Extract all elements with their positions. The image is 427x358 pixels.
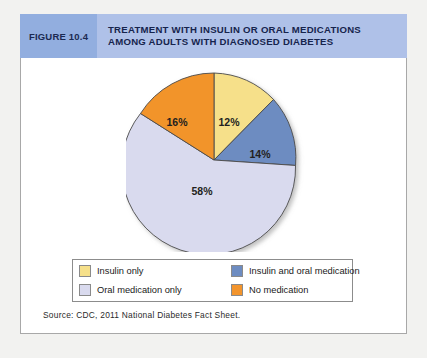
legend-label-oral-medication-only: Oral medication only	[97, 285, 182, 295]
legend-item-insulin-only: Insulin only	[79, 265, 231, 277]
pie-label-insulin-only: 12%	[218, 116, 240, 128]
pie-slice-group	[126, 73, 296, 252]
legend-item-no-medication: No medication	[231, 284, 360, 296]
pie-label-insulin-and-oral: 14%	[249, 148, 271, 160]
legend-swatch-no-medication	[231, 284, 243, 296]
figure-body-frame: 12% 14% 58% 16% Insulin only Insulin and…	[20, 58, 407, 334]
figure-number-tag: FIGURE 10.4	[20, 14, 97, 58]
legend-label-insulin-and-oral: Insulin and oral medication	[249, 266, 360, 276]
pie-chart: 12% 14% 58% 16%	[126, 70, 306, 252]
legend-label-no-medication: No medication	[249, 285, 308, 295]
figure-title-line-2: AMONG ADULTS WITH DIAGNOSED DIABETES	[108, 36, 407, 49]
legend-item-oral-medication-only: Oral medication only	[79, 284, 231, 296]
figure-number-label: FIGURE 10.4	[29, 31, 88, 42]
figure-page: FIGURE 10.4 TREATMENT WITH INSULIN OR OR…	[0, 0, 427, 358]
source-note: Source: CDC, 2011 National Diabetes Fact…	[43, 310, 240, 320]
pie-chart-svg: 12% 14% 58% 16%	[126, 70, 306, 252]
figure-title-line-1: TREATMENT WITH INSULIN OR ORAL MEDICATIO…	[108, 24, 407, 37]
figure-title: TREATMENT WITH INSULIN OR ORAL MEDICATIO…	[97, 14, 407, 58]
legend-label-insulin-only: Insulin only	[97, 266, 144, 276]
figure-header-band: FIGURE 10.4 TREATMENT WITH INSULIN OR OR…	[20, 14, 407, 58]
pie-label-oral-medication-only: 58%	[191, 185, 213, 197]
legend-swatch-insulin-only	[79, 265, 91, 277]
pie-label-no-medication: 16%	[166, 116, 188, 128]
legend-item-insulin-and-oral: Insulin and oral medication	[231, 265, 360, 277]
legend-swatch-oral-medication-only	[79, 284, 91, 296]
legend-swatch-insulin-and-oral	[231, 265, 243, 277]
chart-legend: Insulin only Insulin and oral medication…	[72, 259, 353, 302]
